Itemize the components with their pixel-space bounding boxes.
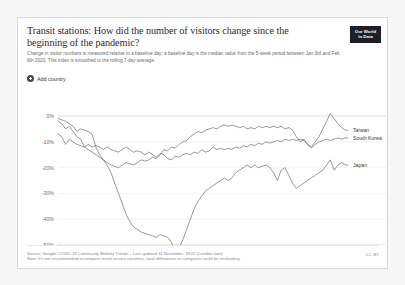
chart-header: Transit stations: How did the number of … [27, 25, 379, 64]
y-tick-label: -40% [42, 216, 54, 222]
series-line-south-korea[interactable] [58, 134, 348, 160]
chart-card: Transit stations: How did the number of … [17, 17, 388, 269]
series-labels-group: TaiwanSouth KoreaJapan [353, 127, 382, 168]
license-label: CC BY [366, 252, 379, 257]
chart-plot-area[interactable]: 0%-10%-20%-30%-40%-50% Feb 17, 2020Apr 3… [18, 80, 389, 245]
series-label-south-korea[interactable]: South Korea [353, 135, 382, 141]
y-tick-label: -10% [42, 139, 54, 145]
our-world-in-data-logo[interactable]: Our World in Data [350, 26, 381, 43]
chart-footer: Source: Google COVID-19 Community Mobili… [27, 251, 379, 262]
gridlines-group [58, 116, 386, 245]
y-tick-label: 0% [47, 113, 55, 119]
page-title: Transit stations: How did the number of … [27, 25, 327, 48]
series-label-taiwan[interactable]: Taiwan [353, 127, 369, 133]
series-paths-group [58, 113, 348, 245]
series-line-taiwan[interactable] [58, 113, 348, 167]
footer-divider [27, 245, 378, 246]
logo-line-2: in Data [350, 34, 381, 39]
y-tick-label: -20% [42, 165, 54, 171]
chart-subtitle: Change in visitor numbers is measured re… [27, 51, 345, 64]
y-tick-label: -30% [42, 190, 54, 196]
line-chart-svg: 0%-10%-20%-30%-40%-50% Feb 17, 2020Apr 3… [18, 80, 389, 245]
note-line: Note: It's not recommended to compare le… [27, 256, 317, 262]
y-axis-tick-labels: 0%-10%-20%-30%-40%-50% [42, 113, 55, 245]
footer-note-block: Source: Google COVID-19 Community Mobili… [27, 251, 317, 262]
series-label-japan[interactable]: Japan [353, 162, 367, 168]
